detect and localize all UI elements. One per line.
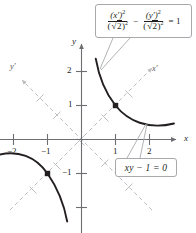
hyperbola-curves xyxy=(0,59,174,222)
denominator-y-prime: (√2)2 xyxy=(141,22,165,32)
equals-one: = 1 xyxy=(169,16,181,26)
y-prime-axis xyxy=(22,80,152,210)
main-axes-group xyxy=(0,44,176,233)
hyperbola-branch-upper-right xyxy=(96,59,174,126)
y-tick-label-1: 1 xyxy=(68,100,73,109)
y-axis-label: y xyxy=(72,37,76,46)
fraction-y-prime: (y′)2 (√2)2 xyxy=(141,11,165,32)
x-tick-label--2: −2 xyxy=(7,147,17,156)
callout-hyperbola-equation: (x′)2 (√2)2 − (y′)2 (√2)2 = 1 xyxy=(95,4,192,38)
x-tick-label-1: 1 xyxy=(113,147,118,156)
leader-hyperbola-b xyxy=(101,38,130,70)
y-prime-axis-label: y′ xyxy=(10,62,16,71)
y-tick-label--1: −1 xyxy=(62,168,72,177)
denominator-x-prime: (√2)2 xyxy=(106,22,130,32)
xy-equation: xy − 1 = 0 xyxy=(125,163,167,173)
x-prime-axis-label: x′ xyxy=(152,64,158,73)
x-tick-label-2: 2 xyxy=(147,147,152,156)
vertex-upper-point xyxy=(113,103,118,108)
vertex-lower-point xyxy=(45,171,50,176)
minus-operator: − xyxy=(133,16,138,26)
x-tick-label--1: −1 xyxy=(41,147,51,156)
fraction-x-prime: (x′)2 (√2)2 xyxy=(106,11,130,32)
y-tick-label-2: 2 xyxy=(67,66,72,75)
hyperbola-figure: x y x′ y′ −2 −1 1 2 2 1 −1 (x′)2 (√2)2 −… xyxy=(0,0,196,233)
x-axis-label: x xyxy=(184,134,188,143)
callout-xy-equation: xy − 1 = 0 xyxy=(115,158,177,177)
hyperbola-equation: (x′)2 (√2)2 − (y′)2 (√2)2 = 1 xyxy=(105,11,183,32)
